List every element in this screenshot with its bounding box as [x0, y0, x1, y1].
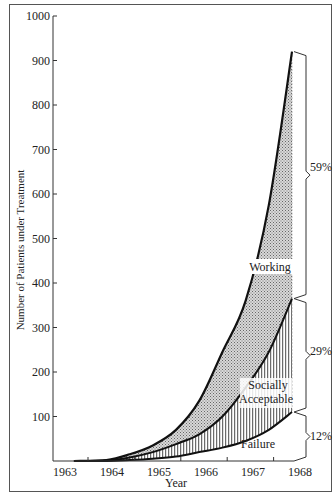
y-tick-label: 600 [32, 187, 50, 201]
y-axis-title: Number of Patients under Treatment [14, 170, 26, 331]
label-acceptable: Acceptable [239, 392, 293, 406]
x-tick-label: 1967 [241, 465, 265, 479]
x-tick-label: 1963 [53, 465, 77, 479]
y-tick-label: 700 [32, 143, 50, 157]
bracket-59% [294, 52, 310, 299]
bracket-12% [294, 412, 310, 461]
y-tick-label: 200 [32, 365, 50, 379]
pct-failure: 12% [310, 429, 332, 443]
y-tick-label: 300 [32, 321, 50, 335]
y-tick-label: 1000 [26, 9, 50, 23]
x-tick-label: 1968 [288, 465, 312, 479]
x-axis-title: Year [165, 476, 187, 490]
pct-working: 59% [310, 160, 332, 174]
x-tick-label: 1966 [194, 465, 218, 479]
label-socially: Socially [248, 378, 287, 392]
percentage-brackets [294, 52, 310, 461]
y-tick-label: 100 [32, 410, 50, 424]
label-working: Working [249, 260, 291, 274]
pct-social: 29% [310, 344, 332, 358]
x-tick-label: 1964 [100, 465, 124, 479]
stacked-area-chart: 1002003004005006007008009001000 19631964… [0, 0, 335, 500]
label-failure: Failure [241, 437, 275, 451]
y-tick-label: 500 [32, 232, 50, 246]
bracket-29% [294, 299, 310, 412]
y-tick-label: 900 [32, 54, 50, 68]
y-tick-label: 400 [32, 276, 50, 290]
y-axis-ticks: 1002003004005006007008009001000 [26, 9, 57, 424]
y-tick-label: 800 [32, 98, 50, 112]
